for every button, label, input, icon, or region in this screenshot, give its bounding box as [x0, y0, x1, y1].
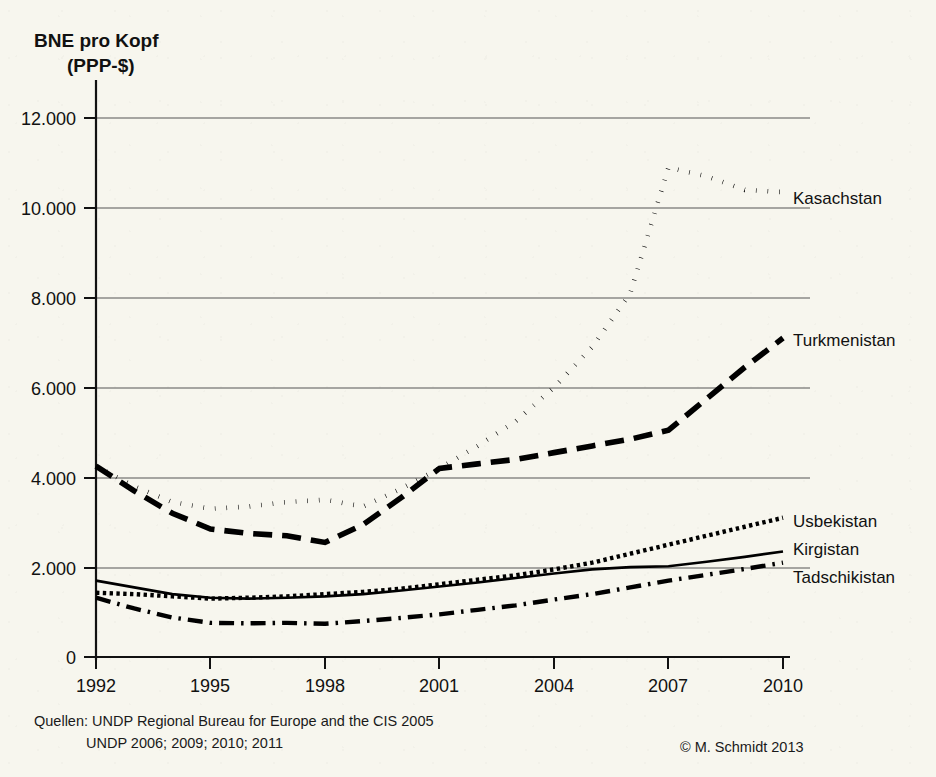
x-tick-label-2007: 2007	[648, 676, 688, 696]
y-tick-label-10000: 10.000	[21, 199, 76, 219]
x-tick-label-1998: 1998	[305, 676, 345, 696]
x-tick-label-2004: 2004	[534, 676, 574, 696]
source-line-2: UNDP 2006; 2009; 2010; 2011	[86, 735, 283, 751]
copyright-notice: © M. Schmidt 2013	[680, 739, 804, 755]
chart-title-line1: BNE pro Kopf	[34, 30, 159, 51]
x-tick-label-2010: 2010	[763, 676, 803, 696]
x-tick-label-1992: 1992	[76, 676, 116, 696]
series-label-tadschikistan: Tadschikistan	[793, 568, 895, 587]
y-tick-label-4000: 4.000	[31, 469, 76, 489]
series-label-turkmenistan: Turkmenistan	[793, 331, 895, 350]
x-tick-label-1995: 1995	[190, 676, 230, 696]
x-tick-label-2001: 2001	[419, 676, 459, 696]
y-tick-label-8000: 8.000	[31, 289, 76, 309]
y-tick-label-6000: 6.000	[31, 379, 76, 399]
gni-per-capita-line-chart: BNE pro Kopf (PPP-$) 0 2.000 4.000 6.000…	[0, 0, 936, 777]
y-tick-label-0: 0	[66, 648, 76, 668]
chart-title-line2: (PPP-$)	[67, 55, 135, 76]
series-label-kirgistan: Kirgistan	[793, 540, 859, 559]
y-tick-label-2000: 2.000	[31, 559, 76, 579]
source-line-1: Quellen: UNDP Regional Bureau for Europe…	[34, 713, 434, 729]
series-label-kasachstan: Kasachstan	[793, 189, 882, 208]
series-label-usbekistan: Usbekistan	[793, 512, 877, 531]
y-tick-label-12000: 12.000	[21, 109, 76, 129]
